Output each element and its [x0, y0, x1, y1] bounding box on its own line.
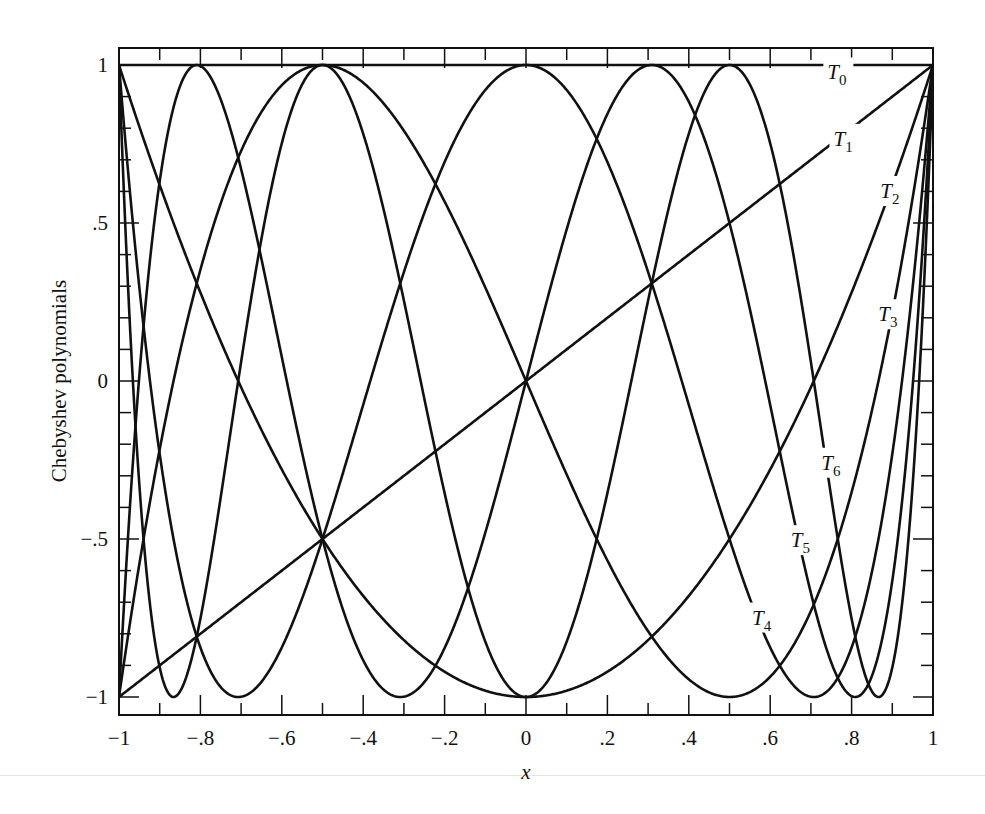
curves: [119, 65, 933, 697]
x-axis-label: x: [520, 760, 531, 784]
y-tick-label: 0: [98, 369, 109, 393]
y-tick-label: 1: [98, 53, 109, 77]
chebyshev-chart: −1−.8−.6−.4−.20.2.4.6.811.50−.5−1 T0T1T2…: [0, 0, 985, 814]
curve-labels: T0T1T2T3T4T5T6: [748, 57, 906, 633]
x-tick-label: −.8: [187, 726, 215, 750]
x-tick-label: −1: [108, 726, 130, 750]
y-tick-label: −1: [86, 685, 108, 709]
x-tick-label: .8: [844, 726, 860, 750]
y-tick-label: .5: [92, 211, 108, 235]
x-tick-label: −.2: [431, 726, 459, 750]
y-tick-label: −.5: [80, 527, 108, 551]
y-axis-label: Chebyshev polynomials: [47, 280, 71, 482]
x-tick-label: .6: [762, 726, 778, 750]
x-tick-label: 1: [928, 726, 939, 750]
x-tick-label: .2: [600, 726, 616, 750]
x-tick-label: −.6: [268, 726, 296, 750]
x-tick-label: 0: [521, 726, 532, 750]
tick-labels: −1−.8−.6−.4−.20.2.4.6.811.50−.5−1: [80, 53, 938, 750]
x-tick-label: .4: [681, 726, 697, 750]
x-tick-label: −.4: [349, 726, 377, 750]
